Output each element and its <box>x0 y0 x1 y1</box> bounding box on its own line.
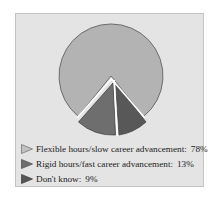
legend-label: Flexible hours/slow career advancement: <box>36 144 187 154</box>
legend-value: 13% <box>177 159 194 169</box>
triangle-medium-icon <box>21 159 33 169</box>
triangle-light-icon <box>21 144 33 154</box>
legend-label: Rigid hours/fast career advancement: <box>36 159 173 169</box>
legend: Flexible hours/slow career advancement: … <box>21 141 203 186</box>
legend-value: 9% <box>85 174 97 184</box>
triangle-dark-icon <box>21 174 33 184</box>
legend-item-rigid-hours: Rigid hours/fast career advancement: 13% <box>21 156 203 171</box>
chart-panel: Flexible hours/slow career advancement: … <box>15 13 204 187</box>
pie-chart <box>16 14 205 139</box>
legend-item-dont-know: Don't know: 9% <box>21 171 203 186</box>
legend-label: Don't know: <box>36 174 81 184</box>
legend-value: 78% <box>191 144 208 154</box>
legend-item-flexible-hours: Flexible hours/slow career advancement: … <box>21 141 203 156</box>
